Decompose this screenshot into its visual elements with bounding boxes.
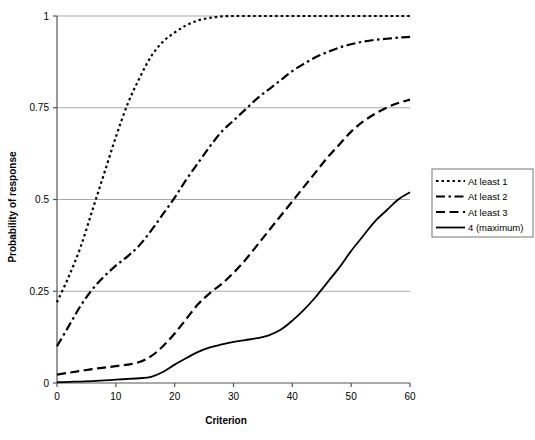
x-tick-label: 30 xyxy=(228,391,240,402)
y-tick-label: 0.25 xyxy=(30,286,50,297)
x-tick-label: 40 xyxy=(287,391,299,402)
y-tick-label: 0.5 xyxy=(35,194,49,205)
y-tick-label: 0.75 xyxy=(30,102,50,113)
chart-figure: 0102030405060 00.250.50.751 Criterion Pr… xyxy=(0,0,535,440)
x-axis-title: Criterion xyxy=(205,415,247,426)
x-tick-label: 20 xyxy=(169,391,181,402)
x-tick-label: 50 xyxy=(346,391,358,402)
x-tick-label: 0 xyxy=(54,391,60,402)
x-tick-label: 60 xyxy=(404,391,416,402)
x-tick-label: 10 xyxy=(110,391,122,402)
line-chart: 0102030405060 00.250.50.751 Criterion Pr… xyxy=(0,0,535,440)
legend-label-1: At least 1 xyxy=(468,176,508,187)
legend-label-2: At least 2 xyxy=(468,191,508,202)
legend-label-4: 4 (maximum) xyxy=(468,222,523,233)
y-tick-label: 0 xyxy=(43,378,49,389)
y-axis-title: Probability of response xyxy=(7,151,18,263)
legend: At least 1At least 2At least 34 (maximum… xyxy=(432,169,533,237)
legend-label-3: At least 3 xyxy=(468,207,508,218)
y-tick-label: 1 xyxy=(43,11,49,22)
